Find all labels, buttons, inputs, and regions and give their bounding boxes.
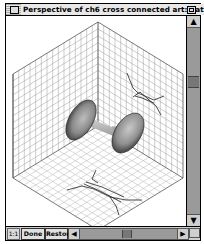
- vertical-scroll-thumb[interactable]: [188, 76, 199, 88]
- scroll-right-arrow-icon[interactable]: ▶: [177, 229, 188, 239]
- perspective-viewport[interactable]: [6, 16, 186, 226]
- scroll-left-arrow-icon[interactable]: ◀: [69, 229, 80, 239]
- isometric-cube-scene: [6, 16, 186, 226]
- floor-grid: [19, 130, 178, 227]
- wall-projection-lines: [127, 73, 164, 115]
- title-bar[interactable]: Perspective of ch6 cross connected art:1…: [6, 4, 200, 16]
- resize-grow-box-icon[interactable]: [189, 228, 200, 238]
- done-button[interactable]: Done: [21, 228, 45, 240]
- trumpet-horn-surface: [60, 95, 151, 159]
- window-title: Perspective of ch6 cross connected art:1…: [21, 4, 204, 15]
- perspective-window: Perspective of ch6 cross connected art:1…: [5, 3, 201, 241]
- restore-button[interactable]: Restore: [45, 228, 68, 240]
- vertical-scrollbar[interactable]: ▲ ▼: [186, 16, 200, 226]
- scroll-up-arrow-icon[interactable]: ▲: [187, 16, 200, 28]
- scroll-down-arrow-icon[interactable]: ▼: [187, 214, 200, 226]
- horizontal-scroll-thumb[interactable]: [122, 230, 132, 238]
- zoom-window-icon[interactable]: [187, 6, 196, 14]
- horizontal-scrollbar[interactable]: ◀ ▶: [68, 228, 189, 240]
- status-bar: 1:1 Done Restore ◀ ▶: [6, 226, 200, 240]
- zoom-level-indicator[interactable]: 1:1: [7, 228, 20, 240]
- close-icon[interactable]: [10, 6, 19, 14]
